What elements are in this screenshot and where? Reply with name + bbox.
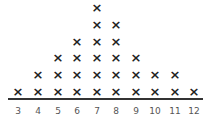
x-tick-label: 11 <box>165 106 185 116</box>
x-mark-icon: × <box>148 68 162 82</box>
x-mark-icon: × <box>90 18 104 32</box>
dot-plot: 3×4××5×××6××××7××××××8×××××9×××10××11××1… <box>0 0 210 122</box>
x-mark-icon: × <box>109 35 123 49</box>
x-mark-icon: × <box>31 85 45 99</box>
x-mark-icon: × <box>90 1 104 15</box>
x-tick-label: 7 <box>87 106 107 116</box>
x-mark-icon: × <box>70 35 84 49</box>
x-mark-icon: × <box>129 68 143 82</box>
x-tick-label: 3 <box>8 106 28 116</box>
x-mark-icon: × <box>31 68 45 82</box>
x-mark-icon: × <box>70 51 84 65</box>
x-tick-label: 9 <box>126 106 146 116</box>
x-mark-icon: × <box>90 35 104 49</box>
x-mark-icon: × <box>168 85 182 99</box>
x-tick-label: 10 <box>145 106 165 116</box>
x-mark-icon: × <box>129 51 143 65</box>
x-mark-icon: × <box>11 85 25 99</box>
x-tick-label: 6 <box>67 106 87 116</box>
x-tick-label: 8 <box>106 106 126 116</box>
x-mark-icon: × <box>90 68 104 82</box>
x-mark-icon: × <box>51 85 65 99</box>
x-mark-icon: × <box>109 51 123 65</box>
x-mark-icon: × <box>90 85 104 99</box>
x-mark-icon: × <box>187 85 201 99</box>
x-mark-icon: × <box>148 85 162 99</box>
x-mark-icon: × <box>109 85 123 99</box>
x-mark-icon: × <box>129 85 143 99</box>
x-mark-icon: × <box>109 18 123 32</box>
x-mark-icon: × <box>70 85 84 99</box>
x-mark-icon: × <box>70 68 84 82</box>
x-tick-label: 5 <box>48 106 68 116</box>
x-mark-icon: × <box>168 68 182 82</box>
x-mark-icon: × <box>51 51 65 65</box>
x-tick-label: 4 <box>28 106 48 116</box>
x-mark-icon: × <box>109 68 123 82</box>
x-tick-label: 12 <box>184 106 204 116</box>
x-mark-icon: × <box>51 68 65 82</box>
x-mark-icon: × <box>90 51 104 65</box>
